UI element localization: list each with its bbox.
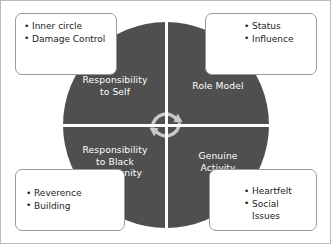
callout-list: Status Influence — [244, 21, 308, 46]
callout-top-right[interactable]: Status Influence — [205, 13, 317, 75]
quadrant-label-top-right: Role Model — [170, 80, 266, 92]
list-item: Heartfelt — [244, 186, 308, 198]
diagram-canvas: Responsibility to Self Role Model Respon… — [0, 0, 331, 244]
callout-top-left[interactable]: Inner circle Damage Control — [15, 13, 117, 75]
list-item: Status — [244, 21, 308, 33]
list-item: Influence — [244, 34, 308, 46]
callout-list: Reverence Building — [26, 188, 116, 213]
list-item: Inner circle — [24, 21, 108, 33]
list-item: Building — [26, 201, 116, 213]
list-item: Social Issues — [244, 199, 308, 223]
quadrant-label-top-left: Responsibility to Self — [67, 74, 163, 97]
callout-bottom-right[interactable]: Heartfelt Social Issues — [209, 169, 317, 231]
quadrant-divider-horizontal — [63, 124, 269, 127]
callout-bottom-left[interactable]: Reverence Building — [15, 169, 125, 231]
list-item: Reverence — [26, 188, 116, 200]
list-item: Damage Control — [24, 34, 108, 46]
callout-list: Inner circle Damage Control — [24, 21, 108, 46]
callout-list: Heartfelt Social Issues — [244, 186, 308, 222]
